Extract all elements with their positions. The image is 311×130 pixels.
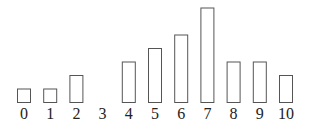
bar-5 (149, 49, 162, 103)
bar-9 (253, 62, 266, 103)
bar-7 (201, 8, 214, 103)
x-tick-label: 7 (203, 105, 211, 122)
bar-8 (227, 62, 240, 103)
bar-10 (280, 76, 293, 103)
bar-6 (175, 35, 188, 103)
x-tick-label: 10 (278, 105, 294, 122)
bar-4 (122, 62, 135, 103)
x-tick-labels: 012345678910 (20, 105, 294, 122)
bar-0 (18, 89, 31, 103)
x-tick-label: 1 (46, 105, 54, 122)
x-tick-label: 0 (20, 105, 28, 122)
x-tick-label: 8 (230, 105, 238, 122)
bars (18, 8, 293, 103)
bar-1 (44, 89, 57, 103)
histogram-chart: 012345678910 (0, 0, 311, 130)
x-tick-label: 6 (177, 105, 185, 122)
bar-2 (70, 76, 83, 103)
x-tick-label: 3 (99, 105, 107, 122)
x-tick-label: 5 (151, 105, 159, 122)
x-tick-label: 2 (72, 105, 80, 122)
x-tick-label: 9 (256, 105, 264, 122)
x-tick-label: 4 (125, 105, 133, 122)
